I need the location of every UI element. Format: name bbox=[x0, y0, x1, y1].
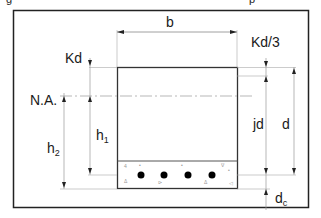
d-dimension bbox=[292, 67, 296, 175]
beam-outline bbox=[118, 68, 238, 189]
svg-text:•: • bbox=[228, 167, 230, 173]
rebar-4 bbox=[209, 172, 216, 179]
width-dimension bbox=[117, 30, 237, 67]
label-kd-third: Kd/3 bbox=[251, 35, 280, 49]
label-neutral-axis: N.A. bbox=[30, 93, 57, 107]
svg-text:Δ: Δ bbox=[204, 179, 208, 185]
rebar-1 bbox=[138, 172, 145, 179]
svg-text:•: • bbox=[181, 162, 183, 168]
svg-text:∇: ∇ bbox=[220, 162, 225, 168]
kd-dimension bbox=[88, 58, 92, 175]
svg-text:Δ: Δ bbox=[124, 178, 128, 184]
beam-section-diagram: 4 • Δ ⊳ • Δ ∇ • ◁ bbox=[0, 0, 321, 218]
label-jd: jd bbox=[253, 117, 264, 131]
svg-text:•: • bbox=[139, 162, 141, 168]
svg-text:◁: ◁ bbox=[229, 180, 233, 186]
kd-third-dimension bbox=[237, 58, 268, 210]
rebar-2 bbox=[161, 172, 168, 179]
label-h1: h1 bbox=[96, 128, 109, 145]
label-kd: Kd bbox=[65, 51, 82, 65]
svg-text:⊳: ⊳ bbox=[158, 179, 162, 185]
rebars bbox=[138, 172, 216, 179]
label-b: b bbox=[166, 15, 174, 29]
rebar-3 bbox=[185, 172, 192, 179]
label-dc: dc bbox=[275, 191, 287, 208]
svg-text:4: 4 bbox=[124, 163, 127, 169]
label-d: d bbox=[282, 117, 290, 131]
label-h2: h2 bbox=[47, 141, 60, 158]
